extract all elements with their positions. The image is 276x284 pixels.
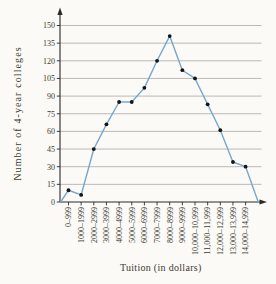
y-tick-label: 105	[43, 74, 55, 83]
x-tick-label: 6000–6999	[140, 207, 149, 243]
data-point-dot	[244, 165, 248, 169]
data-point-dot	[130, 100, 134, 104]
x-tick-label: 2000–2999	[90, 207, 99, 243]
data-point-dot	[143, 86, 147, 90]
data-point-dot	[67, 188, 71, 192]
x-tick-label: 5000–5999	[128, 207, 137, 243]
y-tick-label: 120	[43, 57, 55, 66]
y-tick-label: 0	[51, 198, 55, 207]
x-axis-title: Tuition (in dollars)	[120, 262, 202, 274]
data-point-dot	[206, 102, 210, 106]
x-tick-label: 0–999	[64, 207, 73, 227]
frequency-polygon-figure: (e) 01530456075901051201351500–9991000–1…	[0, 0, 276, 284]
data-point-dot	[231, 160, 235, 164]
x-tick-label: 9000–9999	[178, 207, 187, 243]
x-tick-label: 14,000–14,999	[241, 207, 250, 255]
y-tick-label: 30	[47, 163, 55, 172]
y-tick-label: 150	[43, 21, 55, 30]
x-tick-label: 7000–7999	[153, 207, 162, 243]
y-tick-label: 135	[43, 39, 55, 48]
y-tick-label: 15	[47, 180, 55, 189]
y-axis-title: Number of 4-year colleges	[12, 46, 23, 180]
x-tick-label: 3000–3999	[102, 207, 111, 243]
y-tick-label: 90	[47, 92, 55, 101]
x-tick-label: 11,000–11,999	[203, 207, 212, 254]
chart-svg: 01530456075901051201351500–9991000–19992…	[0, 0, 276, 284]
data-point-dot	[105, 122, 109, 126]
data-point-dot	[117, 100, 121, 104]
data-point-dot	[79, 193, 83, 197]
x-tick-label: 8000–8999	[166, 207, 175, 243]
data-point-dot	[180, 68, 184, 72]
data-point-dot	[92, 147, 96, 151]
x-tick-label: 12,000–12,999	[216, 207, 225, 255]
y-tick-label: 75	[47, 110, 55, 119]
x-tick-label: 4000–4999	[115, 207, 124, 243]
y-tick-label: 45	[47, 145, 55, 154]
data-point-dot	[155, 59, 159, 63]
x-tick-label: 10,000–10,999	[191, 207, 200, 255]
data-point-dot	[193, 77, 197, 81]
x-tick-label: 1000–1999	[77, 207, 86, 243]
y-tick-label: 60	[47, 127, 55, 136]
data-point-dot	[168, 34, 172, 38]
data-point-dot	[218, 128, 222, 132]
x-tick-label: 13,000–13,999	[229, 207, 238, 255]
